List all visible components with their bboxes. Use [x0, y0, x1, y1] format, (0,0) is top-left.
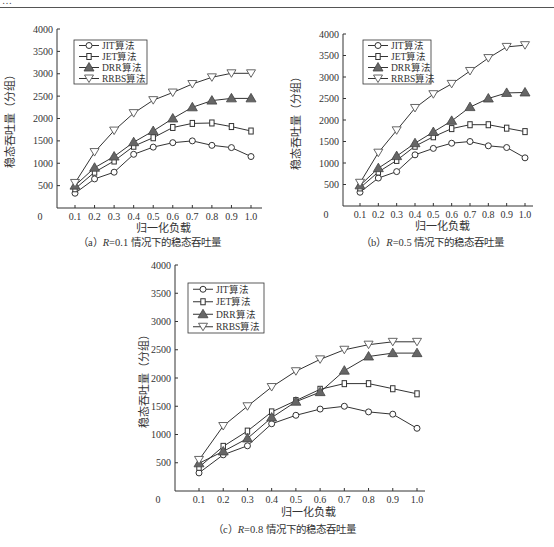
data-point-circle-icon	[269, 421, 275, 427]
x-tick-label: 0.4	[265, 494, 278, 505]
y-tick-label: 3500	[151, 288, 171, 299]
data-point-triangle-down-icon	[340, 346, 349, 354]
y-tick-label: 4000	[151, 260, 171, 271]
series-line	[199, 406, 417, 473]
data-point-triangle-up-icon	[218, 446, 228, 455]
data-point-square-icon	[342, 381, 346, 387]
data-point-triangle-down-icon	[219, 423, 228, 431]
data-point-circle-icon	[341, 403, 347, 409]
y-tick-label: 0	[156, 494, 161, 505]
data-point-circle-icon	[414, 425, 420, 431]
data-point-triangle-up-icon	[339, 366, 349, 375]
x-tick-label: 0.9	[387, 494, 400, 505]
data-point-square-icon	[391, 386, 395, 392]
legend-label: JIT算法	[216, 284, 249, 295]
data-point-triangle-down-icon	[195, 456, 204, 464]
caption-prefix: （c）	[213, 524, 238, 535]
y-tick-label: 1000	[151, 429, 171, 440]
data-point-triangle-up-icon	[242, 433, 252, 442]
legend-label: RRBS算法	[216, 321, 260, 332]
x-axis-label: 归一化负载	[281, 505, 336, 518]
data-point-triangle-up-icon	[267, 413, 277, 422]
data-point-triangle-down-icon	[316, 356, 325, 364]
y-tick-label: 500	[156, 457, 171, 468]
series-JIT算法	[196, 403, 420, 476]
data-point-triangle-up-icon	[291, 397, 301, 406]
legend: JIT算法JET算法DRR算法RRBS算法	[188, 283, 264, 333]
data-point-square-icon	[415, 391, 419, 397]
data-point-triangle-up-icon	[412, 348, 422, 357]
legend-label: JET算法	[216, 296, 251, 307]
y-tick-label: 2500	[151, 344, 171, 355]
x-tick-label: 0.1	[193, 494, 206, 505]
legend-label: DRR算法	[216, 309, 256, 320]
data-point-circle-icon	[390, 411, 396, 417]
x-tick-label: 0.7	[338, 494, 351, 505]
chart-c: 050010001500200025003000350040000.10.20.…	[0, 0, 554, 547]
y-tick-label: 2000	[151, 373, 171, 384]
data-point-square-icon	[366, 381, 370, 387]
y-tick-label: 3000	[151, 316, 171, 327]
data-point-circle-icon	[293, 412, 299, 418]
x-tick-label: 0.6	[314, 494, 327, 505]
data-point-triangle-up-icon	[388, 348, 398, 357]
data-point-circle-icon	[244, 443, 250, 449]
data-point-circle-icon	[196, 470, 202, 476]
data-point-circle-icon	[366, 409, 372, 415]
x-tick-label: 0.8	[362, 494, 375, 505]
x-tick-label: 0.3	[241, 494, 254, 505]
x-tick-label: 1.0	[411, 494, 424, 505]
series-RRBS算法	[195, 338, 422, 464]
series-line	[199, 384, 417, 468]
series-line	[199, 342, 417, 460]
chart-c-caption: （c）R=0.8 情况下的稳态吞吐量	[213, 521, 356, 536]
y-axis-label: 稳态吞吐量（分组）	[137, 329, 150, 428]
legend-square-icon	[201, 299, 205, 305]
legend-circle-icon	[200, 286, 206, 292]
chart-svg: 050010001500200025003000350040000.10.20.…	[0, 0, 554, 547]
series-line	[199, 353, 417, 463]
data-point-triangle-down-icon	[291, 368, 300, 376]
x-tick-label: 0.5	[290, 494, 303, 505]
data-point-circle-icon	[317, 406, 323, 412]
series-JET算法	[197, 381, 419, 471]
series-DRR算法	[194, 348, 422, 467]
x-tick-label: 0.2	[217, 494, 230, 505]
y-tick-label: 1500	[151, 401, 171, 412]
caption-text: =0.8 情况下的稳态吞吐量	[244, 524, 356, 535]
